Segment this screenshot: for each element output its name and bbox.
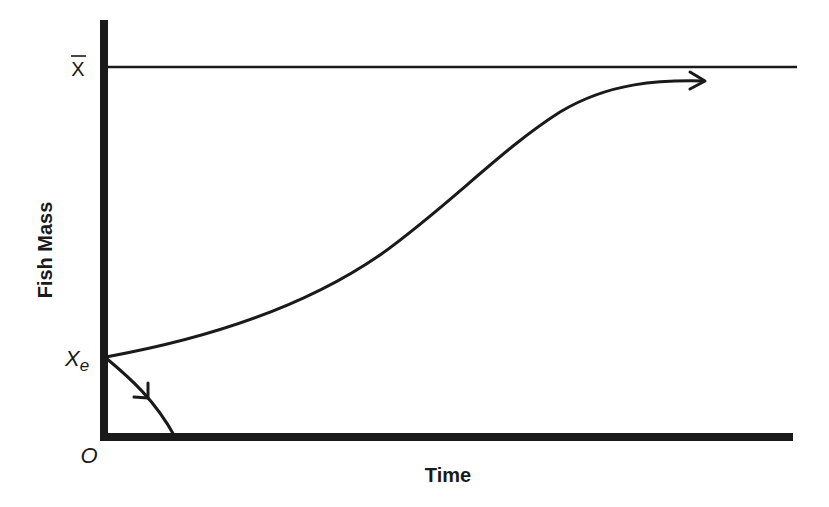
y-axis-title: Fish Mass <box>34 202 56 299</box>
x-bar-label: X <box>71 58 84 80</box>
x-axis-title: Time <box>425 464 471 486</box>
fish-mass-diagram: Fish Mass Time X Xe O <box>0 0 829 507</box>
x-e-label: Xe <box>64 346 89 375</box>
growth-curve <box>106 81 704 357</box>
origin-label: O <box>80 443 97 468</box>
